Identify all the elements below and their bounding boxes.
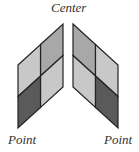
point-label-left: Point xyxy=(8,132,36,148)
left-shape xyxy=(18,24,63,128)
diamond-diagram xyxy=(0,0,139,152)
right-shape xyxy=(73,24,118,128)
point-label-right: Point xyxy=(104,132,132,148)
